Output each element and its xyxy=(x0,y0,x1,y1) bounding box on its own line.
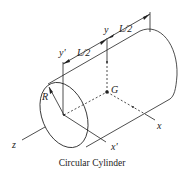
x-axis xyxy=(145,114,155,120)
label-x-prime: x' xyxy=(110,141,118,152)
back-end-arc xyxy=(140,29,177,99)
label-g: G xyxy=(111,84,118,95)
label-half-length-1: L/2 xyxy=(76,47,90,58)
dim-arrow-right xyxy=(143,14,150,20)
z-axis xyxy=(22,127,45,140)
label-r: R xyxy=(41,91,48,102)
x-axis-dot xyxy=(132,106,134,108)
x-axis-dashed xyxy=(107,92,145,114)
y-axis-dot xyxy=(106,61,108,63)
dim-arrow-left xyxy=(63,59,70,64)
z-axis-dashed xyxy=(64,92,107,115)
dim-arrow-mid-left xyxy=(100,39,107,45)
label-x: x xyxy=(156,120,162,131)
label-y: y xyxy=(103,24,109,35)
label-y-prime: y' xyxy=(58,47,66,58)
label-z: z xyxy=(11,139,16,150)
figure-caption: Circular Cylinder xyxy=(59,158,127,168)
origin-dot xyxy=(63,114,65,116)
centroid-dot xyxy=(105,90,109,94)
label-half-length-2: L/2 xyxy=(118,23,132,34)
cylinder-diagram: z x x' y y' R G L/2 L/2 Circular Cylinde… xyxy=(0,0,186,174)
